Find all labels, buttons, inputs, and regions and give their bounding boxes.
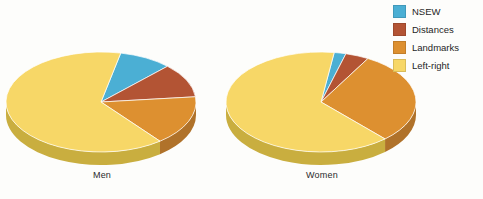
pie-chart-women: Women — [222, 48, 422, 168]
legend-item-landmarks[interactable]: Landmarks — [393, 38, 477, 56]
legend-item-nsew[interactable]: NSEW — [393, 2, 477, 20]
legend-item-left-right[interactable]: Left-right — [393, 56, 477, 74]
legend-label-landmarks: Landmarks — [412, 42, 459, 53]
chart-legend: NSEW Distances Landmarks Left-right — [393, 2, 477, 74]
pie-chart-figure: Men Women NSEW Distances Landmarks Left-… — [0, 0, 483, 199]
legend-item-distances[interactable]: Distances — [393, 20, 477, 38]
pie-men-caption: Men — [2, 170, 202, 180]
legend-swatch-left-right — [393, 59, 406, 72]
legend-swatch-landmarks — [393, 41, 406, 54]
legend-label-nsew: NSEW — [412, 6, 441, 17]
pie-women-svg — [222, 48, 422, 168]
legend-label-distances: Distances — [412, 24, 454, 35]
legend-swatch-nsew — [393, 5, 406, 18]
legend-label-left-right: Left-right — [412, 60, 450, 71]
pie-men-svg — [2, 48, 202, 168]
pie-chart-men: Men — [2, 48, 202, 168]
legend-swatch-distances — [393, 23, 406, 36]
pie-women-caption: Women — [222, 170, 422, 180]
